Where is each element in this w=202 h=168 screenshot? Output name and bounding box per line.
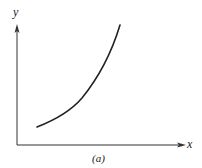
y-axis [15, 24, 20, 145]
y-axis-label: y [13, 5, 18, 20]
chart-canvas [0, 0, 202, 168]
x-axis-label: x [187, 137, 192, 152]
x-axis [17, 143, 186, 148]
data-curve [37, 25, 120, 127]
figure-caption: (a) [92, 152, 105, 164]
